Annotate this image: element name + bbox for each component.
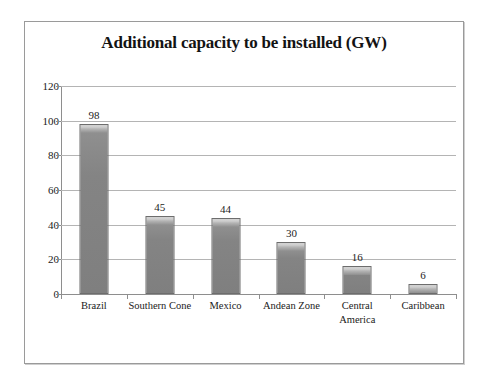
y-axis-tick-label: 60 xyxy=(25,184,59,196)
chart-title: Additional capacity to be installed (GW) xyxy=(25,33,463,53)
plot-area: 98454430166 xyxy=(61,86,456,294)
bar[interactable] xyxy=(145,216,174,294)
bar-slot: 45 xyxy=(127,86,193,294)
y-axis-tick-label: 120 xyxy=(25,80,59,92)
bar-value-label: 30 xyxy=(286,227,297,239)
bar-value-label: 44 xyxy=(220,203,231,215)
bar[interactable] xyxy=(343,266,372,294)
bar-value-label: 98 xyxy=(88,109,99,121)
x-axis-category-label: Southern Cone xyxy=(127,299,193,313)
x-axis-category-label: Brazil xyxy=(61,299,127,313)
x-axis-category-label: Caribbean xyxy=(390,299,456,313)
bar-slot: 98 xyxy=(61,86,127,294)
bar-slot: 30 xyxy=(259,86,325,294)
bar[interactable] xyxy=(211,218,240,294)
x-axis-category-label: Andean Zone xyxy=(259,299,325,313)
y-axis-tick-label: 100 xyxy=(25,115,59,127)
x-axis-category-label: Central America xyxy=(324,299,390,327)
bar-slot: 44 xyxy=(193,86,259,294)
x-axis-category-label: Mexico xyxy=(193,299,259,313)
bar-slot: 6 xyxy=(390,86,456,294)
chart-frame: Additional capacity to be installed (GW)… xyxy=(24,21,464,364)
x-tick xyxy=(456,294,457,299)
bar-value-label: 6 xyxy=(420,269,426,281)
bar-slot: 16 xyxy=(324,86,390,294)
x-axis-labels: BrazilSouthern ConeMexicoAndean ZoneCent… xyxy=(61,299,456,345)
y-axis-labels: 020406080100120 xyxy=(25,86,59,294)
y-axis-tick-label: 0 xyxy=(25,288,59,300)
bar-value-label: 45 xyxy=(154,201,165,213)
bar[interactable] xyxy=(277,242,306,294)
y-axis-tick-label: 40 xyxy=(25,219,59,231)
y-axis-tick-label: 80 xyxy=(25,149,59,161)
bar[interactable] xyxy=(79,124,108,294)
bar-value-label: 16 xyxy=(352,251,363,263)
bar[interactable] xyxy=(409,284,438,294)
y-axis-tick-label: 20 xyxy=(25,253,59,265)
